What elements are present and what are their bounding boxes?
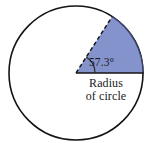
figure-canvas: [0, 0, 151, 151]
radius-caption: Radius of circle: [78, 77, 134, 102]
angle-value-label: 57.3°: [89, 57, 114, 69]
circle-sector-figure: 57.3° Radius of circle: [0, 0, 151, 151]
radius-caption-line-2: of circle: [78, 90, 134, 102]
radius-caption-line-1: Radius: [89, 76, 123, 90]
